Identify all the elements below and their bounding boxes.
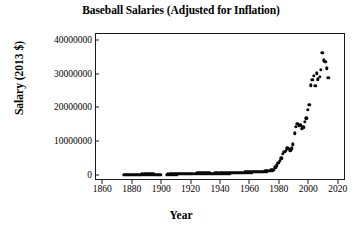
x-tick-label: 1980 [269, 184, 288, 194]
data-point [305, 117, 308, 120]
x-tick-mark [308, 180, 309, 184]
y-tick-mark [95, 174, 99, 175]
x-tick-mark [278, 180, 279, 184]
x-tick-label: 1900 [152, 184, 171, 194]
y-tick-label: 30000000 [2, 69, 92, 79]
data-point [303, 120, 306, 123]
y-tick-mark [95, 73, 99, 74]
x-tick-mark [337, 180, 338, 184]
y-tick-mark [95, 107, 99, 108]
data-point [325, 67, 328, 70]
data-point [309, 84, 312, 87]
chart-container: Baseball Salaries (Adjusted for Inflatio… [0, 0, 362, 233]
y-tick-mark [95, 141, 99, 142]
x-tick-label: 1920 [181, 184, 200, 194]
data-point [290, 147, 293, 150]
x-tick-mark [102, 180, 103, 184]
data-point [310, 78, 313, 81]
x-tick-label: 1880 [122, 184, 141, 194]
x-tick-label: 1940 [211, 184, 230, 194]
x-tick-label: 2000 [299, 184, 318, 194]
x-tick-label: 2020 [328, 184, 347, 194]
x-tick-label: 1860 [93, 184, 112, 194]
data-point [312, 74, 315, 77]
x-tick-mark [131, 180, 132, 184]
x-tick-label: 1960 [240, 184, 259, 194]
x-tick-mark [190, 180, 191, 184]
y-tick-mark [95, 39, 99, 40]
data-point [159, 173, 162, 176]
data-point [321, 51, 324, 54]
plot-area [95, 33, 345, 180]
x-axis-label: Year [0, 209, 362, 221]
x-tick-mark [161, 180, 162, 184]
data-point [327, 76, 330, 79]
data-point [280, 157, 283, 160]
data-point [293, 132, 296, 135]
y-tick-label: 20000000 [2, 102, 92, 112]
x-tick-mark [249, 180, 250, 184]
y-tick-label: 40000000 [2, 35, 92, 45]
data-point [319, 68, 322, 71]
x-tick-mark [220, 180, 221, 184]
data-point [306, 108, 309, 111]
data-point [324, 60, 327, 63]
data-point [302, 126, 305, 129]
data-point [318, 75, 321, 78]
data-point [308, 103, 311, 106]
data-point [278, 159, 281, 162]
data-point [291, 142, 294, 145]
y-tick-label: 10000000 [2, 136, 92, 146]
chart-title: Baseball Salaries (Adjusted for Inflatio… [0, 4, 362, 16]
data-point [316, 78, 319, 81]
data-point [313, 84, 316, 87]
y-tick-label: 0 [2, 170, 92, 180]
